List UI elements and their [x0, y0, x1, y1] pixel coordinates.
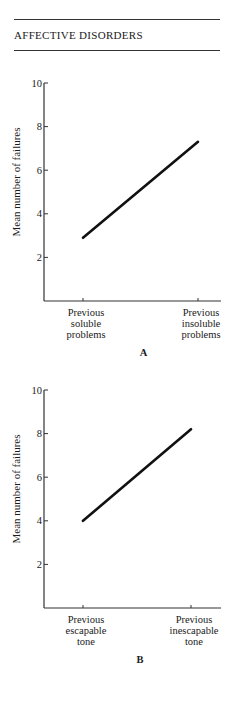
y-tick-label: 8 [37, 121, 42, 132]
y-tick-label: 4 [37, 208, 43, 219]
y-tick-label: 2 [37, 252, 42, 263]
x-tick-label: insoluble [182, 318, 221, 329]
x-tick-label: Previous [183, 307, 220, 318]
data-line [83, 142, 198, 238]
y-tick-label: 6 [37, 165, 42, 176]
x-tick-label: Previous [68, 307, 105, 318]
x-tick-label: soluble [71, 318, 102, 329]
y-tick-label: 8 [37, 428, 42, 439]
x-tick-label: escapable [66, 625, 107, 636]
y-tick-label: 10 [32, 385, 43, 396]
x-tick-label: Previous [68, 614, 105, 625]
y-tick-label: 2 [37, 559, 42, 570]
page-header-title: AFFECTIVE DISORDERS [14, 29, 143, 41]
y-axis-label: Mean number of failures [10, 434, 22, 543]
chart-b: 246810Mean number of failuresPreviousesc… [0, 368, 238, 688]
y-tick-label: 6 [37, 472, 42, 483]
x-tick-label: tone [185, 636, 203, 647]
x-tick-label: problems [181, 329, 220, 340]
y-tick-label: 10 [32, 78, 43, 89]
data-line [83, 429, 191, 521]
panel-label: B [136, 654, 143, 665]
x-tick-label: tone [77, 636, 95, 647]
header-top-rule [14, 19, 220, 20]
y-tick-label: 4 [37, 515, 43, 526]
chart-a: 246810Mean number of failuresPrevioussol… [0, 60, 238, 380]
y-axis-label: Mean number of failures [10, 127, 22, 236]
x-tick-label: inescapable [170, 625, 219, 636]
x-tick-label: problems [66, 329, 105, 340]
x-tick-label: Previous [176, 614, 213, 625]
header-bottom-rule [14, 50, 220, 51]
panel-label: A [140, 347, 148, 358]
